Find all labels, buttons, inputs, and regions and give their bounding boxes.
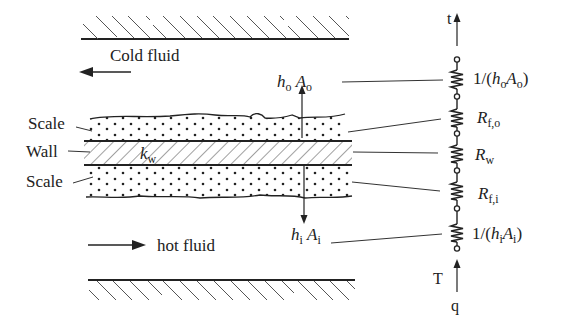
circuit-top-t-label: t bbox=[447, 11, 451, 27]
scale-bottom-label: Scale bbox=[26, 173, 63, 190]
inner-coefficient-label: hi Ai bbox=[291, 226, 321, 247]
heat-exchanger-diagram: Cold fluid hot fluid Scale Wall Scale kw… bbox=[0, 0, 565, 333]
hot-fluid-label: hot fluid bbox=[157, 237, 215, 254]
resistor-outer-fouling-label: Rf,o bbox=[477, 109, 500, 130]
circuit-bottom-q-label: q bbox=[451, 298, 459, 314]
inner-scale-layer bbox=[86, 165, 352, 198]
scale-top-label: Scale bbox=[28, 115, 65, 132]
wall-layer bbox=[84, 141, 352, 165]
resistor-inner-convection-label: 1/(hiAi) bbox=[472, 225, 522, 246]
bottom-boundary bbox=[88, 280, 355, 300]
outer-coefficient-label: ho Ao bbox=[277, 73, 312, 94]
resistor-wall-label: Rw bbox=[475, 146, 494, 167]
resistor-inner-fouling-label: Rf,i bbox=[478, 185, 499, 206]
top-boundary bbox=[81, 16, 349, 39]
wall-conductivity-label: kw bbox=[140, 145, 156, 166]
cold-fluid-label: Cold fluid bbox=[110, 47, 179, 64]
outer-scale-layer bbox=[86, 114, 345, 141]
cold-fluid-arrow bbox=[79, 67, 131, 77]
resistor-outer-convection-label: 1/(hoAo) bbox=[473, 70, 528, 91]
resistance-circuit bbox=[451, 13, 463, 326]
wall-label: Wall bbox=[26, 143, 58, 160]
hot-fluid-arrow bbox=[88, 240, 146, 250]
circuit-bottom-T-label: T bbox=[433, 271, 443, 287]
